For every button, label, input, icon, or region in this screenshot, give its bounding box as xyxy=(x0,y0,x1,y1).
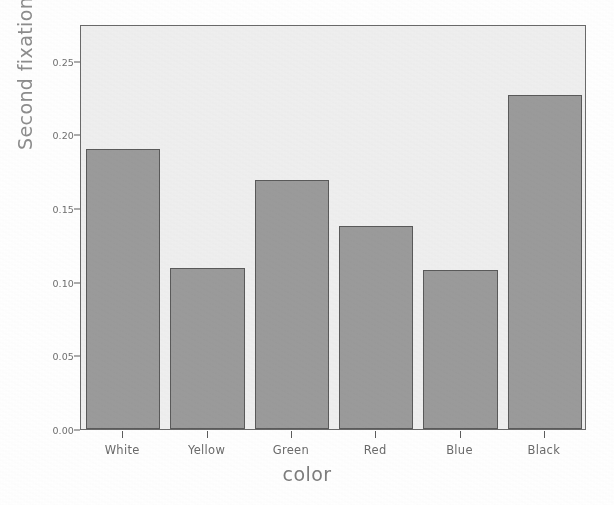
bar-blue xyxy=(423,270,498,429)
plot-inner xyxy=(81,26,585,429)
x-tick-mark xyxy=(544,431,545,438)
x-tick-mark xyxy=(207,431,208,438)
x-tick-label-yellow: Yellow xyxy=(188,443,225,457)
y-tick-mark xyxy=(74,61,80,62)
y-tick-mark xyxy=(74,282,80,283)
bar-white xyxy=(86,149,161,429)
bar-chart-figure: Second fixation time 0.000.050.100.150.2… xyxy=(0,0,614,505)
y-axis-tick-labels: 0.000.050.100.150.200.25 xyxy=(36,0,74,505)
bar-black xyxy=(508,95,583,429)
y-tick-label: 0.20 xyxy=(38,130,74,141)
x-tick-mark xyxy=(122,431,123,438)
plot-area xyxy=(80,25,586,430)
y-tick-mark xyxy=(74,209,80,210)
x-tick-label-white: White xyxy=(105,443,140,457)
y-tick-label: 0.25 xyxy=(38,56,74,67)
x-tick-label-blue: Blue xyxy=(446,443,473,457)
y-tick-label: 0.00 xyxy=(38,425,74,436)
y-tick-label: 0.15 xyxy=(38,204,74,215)
x-axis-title: color xyxy=(0,463,614,485)
y-tick-mark xyxy=(74,356,80,357)
bar-yellow xyxy=(170,268,245,429)
x-tick-label-red: Red xyxy=(364,443,387,457)
x-tick-label-green: Green xyxy=(273,443,309,457)
bar-green xyxy=(255,180,330,429)
y-tick-label: 0.05 xyxy=(38,351,74,362)
x-tick-mark xyxy=(291,431,292,438)
bar-red xyxy=(339,226,414,429)
y-tick-mark xyxy=(74,430,80,431)
y-tick-label: 0.10 xyxy=(38,277,74,288)
x-tick-mark xyxy=(375,431,376,438)
y-tick-mark xyxy=(74,135,80,136)
x-tick-mark xyxy=(460,431,461,438)
x-tick-label-black: Black xyxy=(528,443,561,457)
